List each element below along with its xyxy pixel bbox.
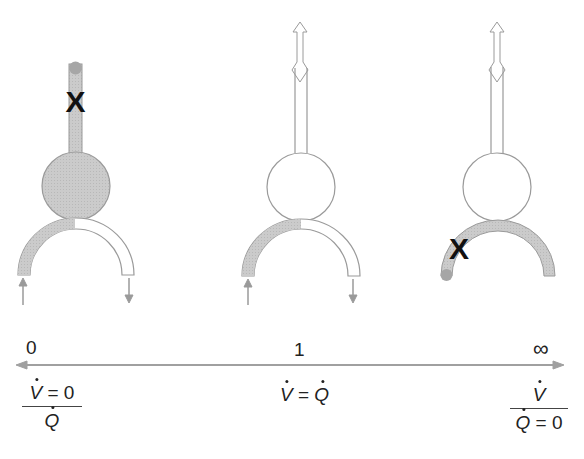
unit-dead-space: X bbox=[441, 22, 556, 281]
scale-label-one: 1 bbox=[294, 340, 305, 359]
blood-in-arrow-icon bbox=[19, 278, 27, 305]
blood-in-arrow-icon bbox=[244, 279, 252, 305]
airway-plug bbox=[69, 62, 82, 75]
unit-normal bbox=[242, 22, 360, 305]
v-dot: V bbox=[30, 382, 43, 404]
axis-left-arrow-icon bbox=[16, 361, 27, 369]
blockage-x-marker-icon: X bbox=[449, 232, 469, 265]
blockage-x-marker-icon: X bbox=[65, 85, 85, 118]
alveolus-filled bbox=[42, 152, 110, 220]
blood-out-arrow-icon bbox=[349, 279, 357, 303]
vq-scale-axis bbox=[16, 361, 564, 369]
formula-shunt: V = 0 Q bbox=[22, 382, 82, 432]
formula-dead-space: V Q = 0 bbox=[510, 384, 568, 434]
scale-label-zero: 0 bbox=[26, 338, 37, 357]
unit-shunt: X bbox=[18, 62, 134, 306]
blood-out-arrow-icon bbox=[125, 278, 133, 303]
q-dot: Q bbox=[45, 410, 60, 432]
axis-right-arrow-icon bbox=[553, 361, 564, 369]
alveolus-empty bbox=[463, 153, 531, 221]
formula-normal: V = Q bbox=[280, 384, 329, 406]
alveolus-empty bbox=[267, 153, 335, 221]
scale-label-infinity: ∞ bbox=[533, 338, 549, 360]
capillary-plug bbox=[441, 269, 453, 281]
